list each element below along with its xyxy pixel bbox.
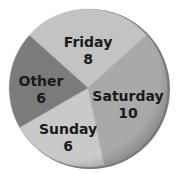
slice-label-friday: Friday (64, 34, 113, 50)
slice-label-other: Other (19, 73, 64, 89)
slice-value-friday: 8 (83, 51, 93, 67)
pie-chart-svg: Friday 8 Saturday 10 Sunday 6 Other 6 (0, 0, 176, 175)
slice-value-other: 6 (36, 90, 46, 106)
pie-chart: Friday 8 Saturday 10 Sunday 6 Other 6 (0, 0, 176, 175)
slice-value-saturday: 10 (118, 105, 138, 121)
slice-label-sunday: Sunday (39, 121, 97, 137)
slice-label-saturday: Saturday (92, 88, 163, 104)
slice-value-sunday: 6 (63, 138, 73, 154)
